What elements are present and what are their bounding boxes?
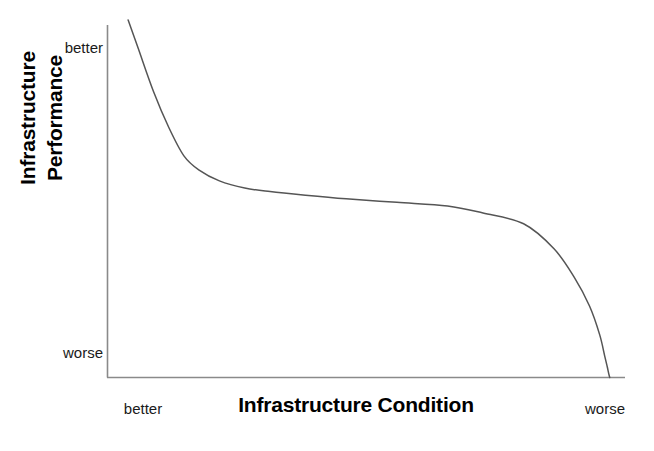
x-axis-title: Infrastructure Condition (186, 393, 526, 417)
y-axis-title-line-2: Performance (41, 55, 68, 181)
chart-figure: better worse better worse Infrastructure… (0, 0, 654, 451)
y-axis-title-line-1: Infrastructure (14, 51, 41, 185)
x-axis-tick-better: better (112, 400, 174, 417)
plot-area (0, 0, 654, 451)
y-axis-tick-worse: worse (0, 344, 103, 361)
performance-curve (128, 20, 610, 378)
x-axis-tick-worse: worse (574, 400, 636, 417)
y-axis-title: Infrastructure Performance (13, 8, 69, 228)
